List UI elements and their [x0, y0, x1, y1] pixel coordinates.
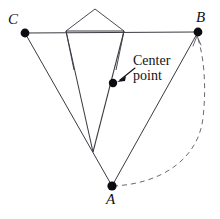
pentagon-shape: [66, 9, 124, 70]
figure-canvas: [0, 0, 220, 219]
segment-c-to-a: [25, 33, 112, 186]
center-point-annotation-line-2: point: [133, 68, 203, 83]
center-point-annotation-line-1: Center: [133, 53, 203, 68]
callout-arrowhead-icon: [117, 76, 126, 82]
vertex-label-c: C: [8, 12, 18, 27]
geometry-figure: C B A Center point: [0, 0, 220, 219]
vertex-dot-b: [194, 28, 203, 37]
kite-right-edge: [93, 31, 124, 152]
vertex-dot-a: [107, 181, 116, 190]
vertex-dot-c: [21, 29, 30, 38]
segment-c-to-b: [25, 32, 198, 33]
kite-left-edge: [66, 31, 93, 152]
center-point-annotation: Center point: [133, 53, 203, 83]
vertex-label-a: A: [106, 192, 115, 207]
center-point-dot: [109, 79, 117, 87]
arc-arrowhead-icon: [193, 36, 201, 46]
kite-shape: [66, 31, 124, 152]
vertex-label-b: B: [196, 10, 205, 25]
